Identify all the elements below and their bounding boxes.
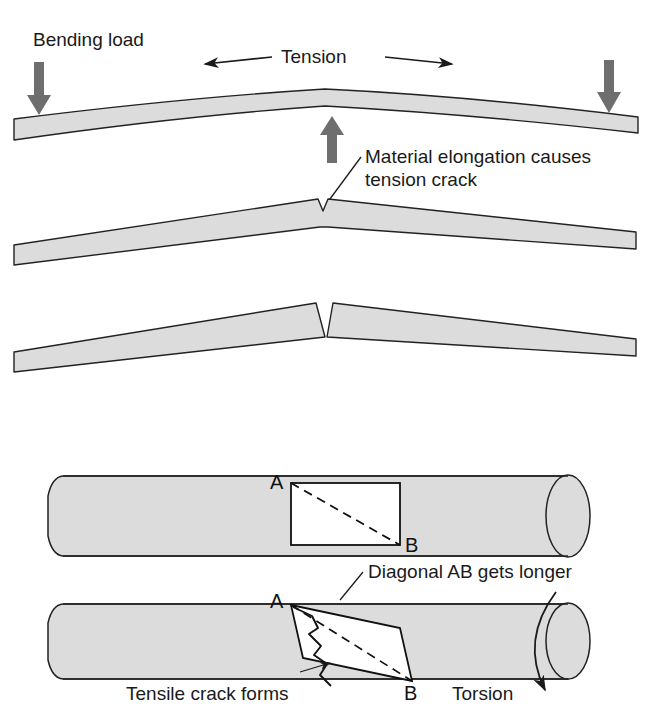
crack-caption-line1: Material elongation causes bbox=[365, 146, 591, 167]
point-a-label-bottom: A bbox=[270, 590, 284, 612]
crack-caption-line2: tension crack bbox=[365, 169, 477, 190]
torsion-label: Torsion bbox=[452, 683, 513, 704]
point-a-label-top: A bbox=[270, 471, 284, 493]
beam-cracked bbox=[14, 303, 636, 372]
tensile-crack-caption: Tensile crack forms bbox=[126, 683, 289, 704]
shaft-end-cap-bottom bbox=[546, 603, 590, 679]
shaft-end-cap-top bbox=[546, 475, 590, 557]
up-arrow-icon-center bbox=[320, 116, 344, 163]
leader-line-icon-crack bbox=[327, 157, 361, 203]
point-b-label-top: B bbox=[405, 534, 418, 556]
failure-mode-figure: Bending load Tension Material elongation… bbox=[0, 0, 650, 709]
tension-label: Tension bbox=[281, 46, 347, 67]
beam-notched bbox=[14, 199, 636, 265]
point-b-label-bottom: B bbox=[404, 682, 417, 704]
leader-line-icon-diagonal bbox=[340, 572, 363, 600]
shaft-undeformed: A B bbox=[48, 471, 590, 557]
diagonal-caption: Diagonal AB gets longer bbox=[368, 561, 573, 582]
down-arrow-icon-right bbox=[597, 60, 621, 113]
down-arrow-icon-left bbox=[27, 62, 51, 115]
bending-load-label: Bending load bbox=[33, 29, 144, 50]
